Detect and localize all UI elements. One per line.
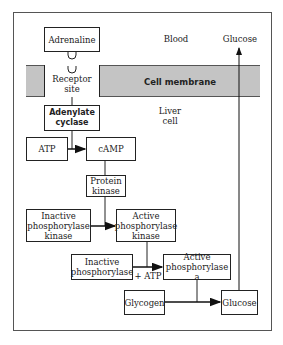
atp-box: ATP xyxy=(26,137,68,161)
active-p-line2: phosphorylase a xyxy=(164,262,230,282)
liver-cell-label: Liver cell xyxy=(150,106,190,126)
inactive-phosphorylase-box: Inactive phosphorylase xyxy=(71,254,133,280)
active-pk-line2: phosphorylase xyxy=(115,221,177,231)
glycogen-label: Glycogen xyxy=(124,298,164,308)
inactive-pk-line1: Inactive xyxy=(41,211,76,221)
glucose-label: Glucose xyxy=(222,298,256,308)
inactive-p-line2: phosphorylase xyxy=(71,267,133,277)
adenylate-cyclase-box: Adenylate cyclase xyxy=(44,105,100,131)
inactive-phosphorylase-kinase-box: Inactive phosphorylase kinase xyxy=(26,209,91,242)
atp-label: ATP xyxy=(38,144,55,154)
inactive-pk-line2: phosphorylase xyxy=(27,221,89,231)
glycogen-box: Glycogen xyxy=(124,290,165,315)
active-p-line1: Active xyxy=(184,252,211,262)
inactive-p-line1: Inactive xyxy=(85,257,120,267)
active-phosphorylase-kinase-box: Active phosphorylase kinase xyxy=(116,209,176,242)
inactive-pk-line3: kinase xyxy=(45,231,73,241)
camp-box: cAMP xyxy=(86,137,136,161)
adenylate-label-line1: Adenylate xyxy=(49,108,95,118)
active-phosphorylase-a-box: Active phosphorylase a xyxy=(163,254,231,280)
protein-kinase-line1: Protein xyxy=(90,176,122,186)
glucose-box: Glucose xyxy=(221,290,258,315)
active-pk-line3: kinase xyxy=(132,231,160,241)
protein-kinase-line2: kinase xyxy=(92,186,120,196)
cell-membrane-label: Cell membrane xyxy=(140,77,220,87)
adenylate-label-line2: cyclase xyxy=(55,118,88,128)
plus-atp-label: + ATP xyxy=(133,271,163,281)
liver-label-line1: Liver xyxy=(150,106,190,116)
liver-label-line2: cell xyxy=(150,116,190,126)
camp-label: cAMP xyxy=(98,144,123,154)
protein-kinase-box: Protein kinase xyxy=(86,175,126,197)
active-pk-line1: Active xyxy=(133,211,160,221)
